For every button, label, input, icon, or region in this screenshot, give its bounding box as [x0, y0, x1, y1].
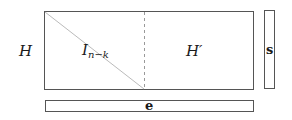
matrix-h-box [45, 12, 254, 90]
identity-block-label: In−k [81, 41, 109, 60]
e-vector-label: e [145, 98, 153, 113]
diagram-canvas: H In−k H′ s e [0, 0, 292, 120]
s-vector-label: s [266, 42, 273, 57]
h-matrix-label: H [18, 42, 33, 60]
identity-subscript: n−k [88, 49, 109, 60]
h-prime-block-label: H′ [185, 42, 203, 60]
